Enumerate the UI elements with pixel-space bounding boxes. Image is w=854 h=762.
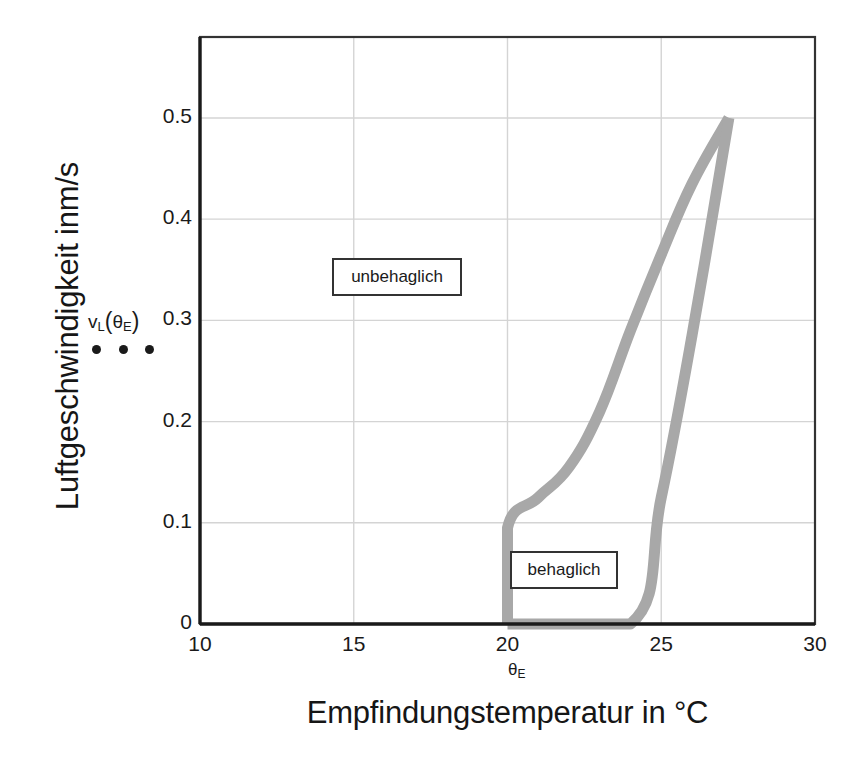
comfort-boundary-curves xyxy=(508,118,729,624)
region-label-text: behaglich xyxy=(528,560,601,580)
plot-area xyxy=(0,0,854,762)
region-label-text: unbehaglich xyxy=(351,267,443,287)
chart-figure: Luftgeschwindigkeit inm/s Empfindungstem… xyxy=(0,0,854,762)
region-label-behaglich: behaglich xyxy=(510,551,618,589)
region-label-unbehaglich: unbehaglich xyxy=(332,258,462,296)
curve-upper-boundary xyxy=(508,118,729,624)
